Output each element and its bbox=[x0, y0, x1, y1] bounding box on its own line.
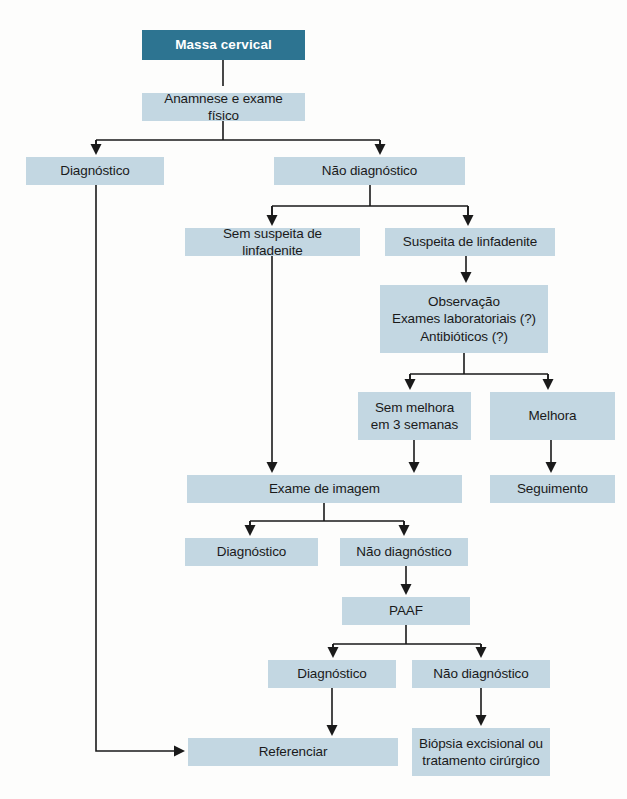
arrowhead-icon bbox=[328, 647, 339, 658]
flow-node-label: Não diagnóstico bbox=[418, 665, 544, 682]
flow-node-label: Massa cervical bbox=[148, 36, 299, 53]
flowchart-canvas: Massa cervicalAnamnese e exame físicoDia… bbox=[0, 0, 627, 799]
arrowhead-icon bbox=[375, 144, 386, 155]
arrowhead-icon bbox=[546, 462, 557, 473]
flow-node-nao-diagnostico-2[interactable]: Não diagnóstico bbox=[340, 538, 468, 566]
flow-node-suspeita[interactable]: Suspeita de linfadenite bbox=[385, 228, 555, 256]
flow-node-sem-melhora[interactable]: Sem melhoraem 3 semanas bbox=[358, 392, 471, 440]
flow-node-massa-cervical[interactable]: Massa cervical bbox=[142, 30, 305, 60]
flow-node-referenciar[interactable]: Referenciar bbox=[188, 738, 398, 766]
arrowhead-icon bbox=[476, 647, 487, 658]
flow-edge bbox=[410, 353, 548, 384]
flow-node-sem-suspeita[interactable]: Sem suspeita de linfadenite bbox=[185, 228, 360, 256]
flow-node-diagnostico-2[interactable]: Diagnóstico bbox=[185, 538, 318, 566]
flow-node-nao-diagnostico-1[interactable]: Não diagnóstico bbox=[274, 157, 465, 185]
arrowhead-icon bbox=[174, 746, 185, 757]
flow-node-label: Referenciar bbox=[194, 743, 392, 760]
flow-node-label: Diagnóstico bbox=[191, 543, 312, 560]
arrowhead-icon bbox=[461, 272, 472, 283]
flow-edge bbox=[272, 185, 468, 216]
flow-node-melhora[interactable]: Melhora bbox=[490, 392, 615, 440]
flow-node-label: Sem melhoraem 3 semanas bbox=[364, 399, 465, 434]
flow-node-exame-imagem[interactable]: Exame de imagem bbox=[187, 475, 462, 503]
flow-node-paaf[interactable]: PAAF bbox=[342, 597, 470, 625]
flow-node-nao-diagnostico-3[interactable]: Não diagnóstico bbox=[412, 660, 550, 688]
arrowhead-icon bbox=[463, 215, 474, 226]
flow-node-diagnostico-3[interactable]: Diagnóstico bbox=[268, 660, 396, 688]
flow-node-label: ObservaçãoExames laboratoriais (?)Antibi… bbox=[386, 293, 542, 345]
flow-node-label: Anamnese e exame físico bbox=[148, 90, 299, 125]
flow-node-label: Não diagnóstico bbox=[346, 543, 462, 560]
flow-node-label: Não diagnóstico bbox=[280, 162, 459, 179]
arrowhead-icon bbox=[401, 584, 412, 595]
flow-node-label: Seguimento bbox=[496, 480, 609, 497]
flow-node-label: Diagnóstico bbox=[274, 665, 390, 682]
arrowhead-icon bbox=[267, 462, 278, 473]
flow-node-anamnese[interactable]: Anamnese e exame físico bbox=[142, 93, 305, 121]
flow-edge bbox=[96, 185, 178, 751]
flow-node-label: PAAF bbox=[348, 602, 464, 619]
arrowhead-icon bbox=[405, 379, 416, 390]
arrowhead-icon bbox=[91, 144, 102, 155]
flow-node-biopsia[interactable]: Biópsia excisional outratamento cirúrgic… bbox=[412, 728, 550, 776]
flow-node-seguimento[interactable]: Seguimento bbox=[490, 475, 615, 503]
arrowhead-icon bbox=[409, 462, 420, 473]
arrowhead-icon bbox=[327, 725, 338, 736]
arrowhead-icon bbox=[245, 525, 256, 536]
arrowhead-icon bbox=[476, 715, 487, 726]
flow-edge bbox=[333, 625, 481, 653]
flow-node-diagnostico-1[interactable]: Diagnóstico bbox=[26, 157, 164, 185]
flow-node-observacao[interactable]: ObservaçãoExames laboratoriais (?)Antibi… bbox=[380, 285, 548, 353]
flow-edge bbox=[250, 503, 404, 531]
flow-node-label: Biópsia excisional outratamento cirúrgic… bbox=[418, 735, 544, 770]
arrowhead-icon bbox=[543, 379, 554, 390]
flow-edge bbox=[96, 121, 380, 150]
flow-node-label: Exame de imagem bbox=[193, 480, 456, 497]
flow-node-label: Melhora bbox=[496, 407, 609, 424]
flow-node-label: Sem suspeita de linfadenite bbox=[191, 225, 354, 260]
flow-node-label: Suspeita de linfadenite bbox=[391, 233, 549, 250]
arrowhead-icon bbox=[399, 525, 410, 536]
flow-node-label: Diagnóstico bbox=[32, 162, 158, 179]
